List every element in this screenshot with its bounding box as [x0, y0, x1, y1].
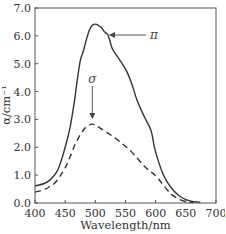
annotation-layer: πσ — [88, 28, 159, 118]
x-tick-label: 650 — [175, 207, 196, 220]
y-axis-title: α/cm⁻¹ — [0, 85, 13, 125]
y-tick-label: 7.0 — [14, 2, 32, 15]
pi-annotation-label: π — [149, 28, 159, 42]
sigma-series-line — [35, 124, 193, 202]
x-axis-title: Wavelength/nm — [80, 218, 171, 232]
y-tick-label: 3.0 — [14, 113, 32, 126]
y-tick-label: 6.0 — [14, 30, 32, 43]
y-tick-label: 0.0 — [14, 197, 32, 210]
y-tick-label: 2.0 — [14, 141, 32, 154]
series-layer — [35, 24, 200, 202]
y-axis: 0.01.02.03.04.05.06.07.0 — [14, 2, 39, 210]
x-tick-label: 450 — [55, 207, 76, 220]
absorption-chart: 400450500550600650700 0.01.02.03.04.05.0… — [0, 0, 225, 234]
sigma-annotation-label: σ — [88, 72, 97, 86]
x-tick-label: 700 — [206, 207, 226, 220]
y-tick-label: 1.0 — [14, 169, 32, 182]
y-tick-label: 4.0 — [14, 86, 32, 99]
y-tick-label: 5.0 — [14, 58, 32, 71]
